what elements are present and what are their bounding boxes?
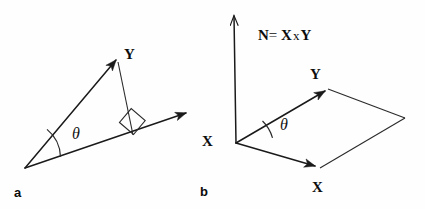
panel-b-vector-y-label: Y <box>310 67 321 82</box>
panel-b-parallelogram-side-bottom <box>320 118 405 168</box>
panel-b-normal-symbol-y: Y <box>300 27 311 43</box>
panel-b-normal-equals: = <box>269 27 277 43</box>
figure-container: Y θ a N= XxY Y X X θ b <box>0 0 425 209</box>
panel-b-angle-label: θ <box>280 117 288 133</box>
panel-a-letter: a <box>14 186 21 199</box>
panel-b-angle-arc <box>263 121 273 138</box>
panel-a-angle-label: θ <box>72 126 80 142</box>
panel-a-graphics <box>25 60 186 168</box>
panel-a-vector-y-label: Y <box>124 47 135 62</box>
panel-a-perpendicular-line <box>118 62 133 135</box>
panel-b-letter: b <box>200 185 208 198</box>
panel-b-parallelogram-side-top <box>328 89 405 118</box>
panel-b-normal-symbol-n: N <box>258 27 269 43</box>
panel-b-vector-x-label-bottom: X <box>312 180 323 195</box>
panel-b-normal-symbol-x: X <box>281 27 292 43</box>
panel-b-vector-x-label-left: X <box>202 134 213 149</box>
panel-b-normal-equation: N= XxY <box>258 28 311 43</box>
figure-vector-graphics <box>0 0 425 209</box>
panel-b-normal-arrow <box>234 16 236 143</box>
panel-b-vector-x-arrow <box>236 143 315 166</box>
